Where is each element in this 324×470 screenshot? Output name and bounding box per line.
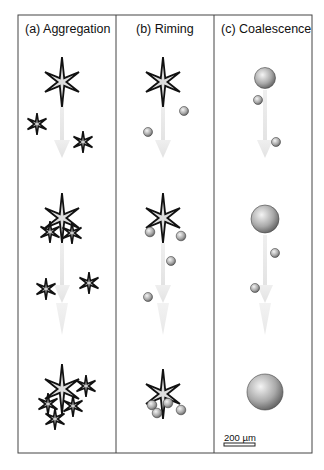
- scale-bar: [224, 443, 255, 446]
- small-ice-crystal-icon: [74, 131, 93, 153]
- small-ice-crystal-icon: [28, 113, 47, 135]
- small-ice-crystal-icon: [80, 272, 99, 294]
- droplet-icon: [251, 284, 260, 293]
- small-ice-crystal-icon: [41, 221, 60, 243]
- droplet-icon: [145, 227, 155, 237]
- droplet-icon: [144, 293, 153, 302]
- droplet-icon: [167, 257, 176, 266]
- ice-crystal-icon: [146, 57, 180, 107]
- droplet-icon: [254, 96, 263, 105]
- droplet-icon: [272, 138, 281, 147]
- hydrometeor-growth-diagram: [0, 0, 324, 470]
- large-drop-icon: [247, 374, 283, 410]
- panel-title-a: (a) Aggregation: [25, 22, 110, 36]
- droplet-icon: [144, 128, 153, 137]
- rimed-crystal-icon: [146, 369, 186, 419]
- drop-icon: [255, 68, 276, 89]
- droplet-icon: [180, 107, 189, 116]
- panel-title-b: (b) Riming: [136, 22, 194, 36]
- panel-b-riming: [144, 57, 189, 419]
- panel-title-c: (c) Coalescence: [221, 22, 311, 36]
- small-ice-crystal-icon: [63, 222, 82, 244]
- scale-bar-label: 200 µm: [224, 432, 256, 443]
- droplet-icon: [271, 249, 280, 258]
- small-ice-crystal-icon: [37, 278, 56, 300]
- ice-crystal-icon: [45, 57, 79, 107]
- drop-icon: [251, 205, 279, 233]
- droplet-icon: [176, 231, 186, 241]
- aggregate-snowflake-icon: [39, 364, 96, 430]
